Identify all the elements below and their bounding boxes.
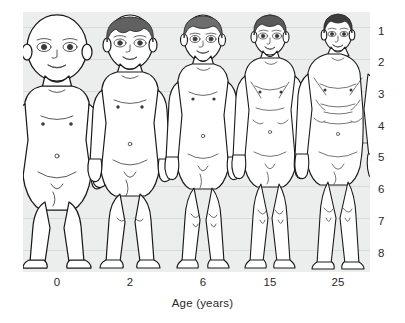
x-axis-label: Age (years) bbox=[0, 297, 405, 309]
y-tick-3: 3 bbox=[378, 89, 384, 101]
x-tick-age-0: 0 bbox=[54, 276, 60, 288]
x-tick-age-25: 25 bbox=[332, 276, 345, 288]
y-tick-2: 2 bbox=[378, 57, 384, 69]
body-proportions-chart: 1 2 3 4 5 6 7 8 0 2 6 15 25 Age (years) bbox=[0, 0, 405, 323]
x-tick-age-2: 2 bbox=[127, 276, 133, 288]
x-tick-age-6: 6 bbox=[200, 276, 206, 288]
figure-age-25 bbox=[294, 12, 370, 272]
plot-area bbox=[23, 12, 370, 272]
y-tick-8: 8 bbox=[378, 248, 384, 260]
y-tick-5: 5 bbox=[378, 152, 384, 164]
x-axis: 0 2 6 15 25 bbox=[23, 276, 370, 294]
y-axis: 1 2 3 4 5 6 7 8 bbox=[372, 12, 405, 272]
x-tick-age-15: 15 bbox=[264, 276, 277, 288]
y-tick-7: 7 bbox=[378, 216, 384, 228]
y-tick-6: 6 bbox=[378, 184, 384, 196]
y-tick-1: 1 bbox=[378, 26, 384, 38]
y-tick-4: 4 bbox=[378, 121, 384, 133]
